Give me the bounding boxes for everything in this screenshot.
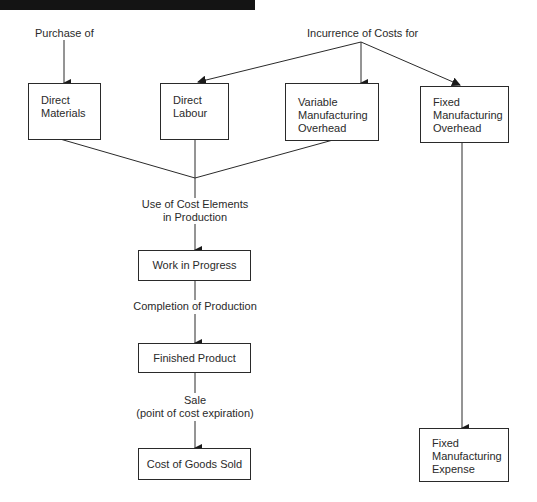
- finished-product-box: Finished Product: [138, 343, 251, 373]
- box-line: Direct: [173, 94, 228, 107]
- variable-manufacturing-overhead-box: Variable Manufacturing Overhead: [285, 83, 379, 141]
- box-line: Direct: [41, 94, 100, 107]
- box-line: Overhead: [433, 122, 508, 135]
- box-line: Materials: [41, 107, 100, 120]
- label-line: Use of Cost Elements: [135, 198, 255, 211]
- box-line: Fixed: [433, 96, 508, 109]
- sale-label: Sale (point of cost expiration): [130, 394, 260, 420]
- fixed-manufacturing-overhead-box: Fixed Manufacturing Overhead: [420, 86, 509, 143]
- box-line: Manufacturing: [298, 109, 378, 122]
- incurrence-of-costs-label: Incurrence of Costs for: [307, 27, 418, 40]
- box-line: Variable: [298, 96, 378, 109]
- box-line: Fixed: [432, 437, 508, 450]
- label-line: Sale: [130, 394, 260, 407]
- connector-lines: [0, 0, 537, 502]
- purchase-of-label: Purchase of: [35, 27, 94, 40]
- fixed-manufacturing-expense-box: Fixed Manufacturing Expense: [419, 428, 509, 482]
- box-line: Labour: [173, 107, 228, 120]
- direct-materials-box: Direct Materials: [28, 83, 101, 140]
- use-of-cost-elements-label: Use of Cost Elements in Production: [135, 198, 255, 224]
- label-line: in Production: [135, 211, 255, 224]
- cost-of-goods-sold-box: Cost of Goods Sold: [138, 448, 251, 480]
- box-line: Overhead: [298, 122, 378, 135]
- box-line: Manufacturing: [432, 450, 508, 463]
- box-line: Expense: [432, 463, 508, 476]
- box-line: Manufacturing: [433, 109, 508, 122]
- work-in-progress-box: Work in Progress: [138, 250, 251, 281]
- direct-labour-box: Direct Labour: [160, 83, 229, 140]
- label-line: (point of cost expiration): [130, 407, 260, 420]
- completion-of-production-label: Completion of Production: [130, 300, 260, 313]
